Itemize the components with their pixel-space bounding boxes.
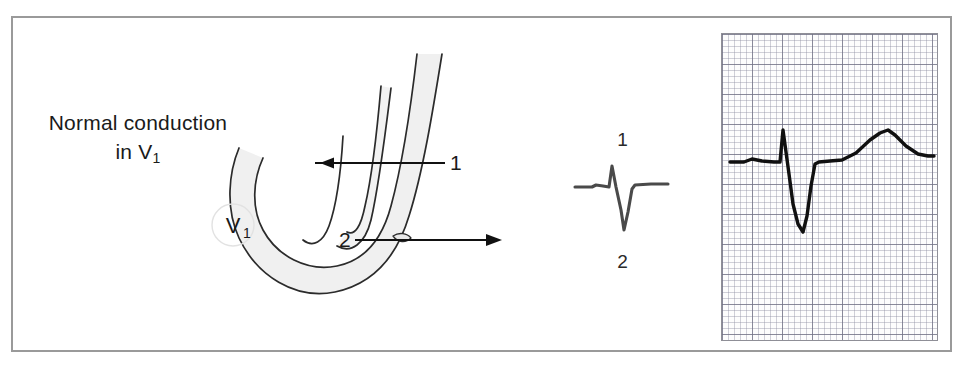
lead-v1-subscript: 1 [243,225,251,241]
arrow-1-label: 1 [450,152,462,173]
schematic-s-wave-label: 2 [565,252,680,271]
schematic-qrs-complex: 1 2 [565,130,680,285]
arrow-2-label: 2 [339,229,351,250]
ecg-trace-container [722,34,937,340]
ecg-graph-paper-panel [721,33,938,341]
arrow-1-head [320,158,334,169]
schematic-complex-trace [565,154,680,254]
conduction-arrow-layer [290,140,520,260]
lead-v1-letter: V [226,213,241,238]
schematic-r-wave-label: 1 [565,130,680,149]
schematic-rs-waveform [575,166,668,230]
arrow-2-head [486,234,502,246]
ecg-v1-waveform [730,130,934,232]
ecg-conduction-figure: Normal conduction in V1 V 1 [0,0,965,367]
caption-lead-prefix: in V [116,140,153,163]
caption-lead-subscript: 1 [153,150,161,166]
